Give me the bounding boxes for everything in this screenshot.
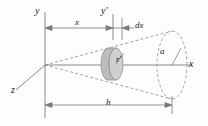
dimension-x-label: x xyxy=(75,18,79,27)
disc-radius-label: r′ xyxy=(116,55,121,64)
dimension-dx-label: dx xyxy=(135,21,144,30)
cone-diagram: y y′ x z x dx h r′ a xyxy=(0,0,208,126)
z-axis-line xyxy=(16,65,45,90)
dimension-x-arrow-right xyxy=(106,26,113,31)
elemental-disc-group xyxy=(101,48,124,80)
diagram-canvas xyxy=(0,0,208,126)
dimension-dx-group xyxy=(113,18,134,40)
dimension-h-arrow-right xyxy=(165,103,172,108)
z-axis-label: z xyxy=(11,85,15,95)
base-radius-leader xyxy=(172,48,181,65)
y-axis-label: y xyxy=(35,6,39,16)
dimension-x-arrow-left xyxy=(45,26,52,31)
x-axis-label: x xyxy=(189,59,193,69)
dimension-x-group xyxy=(45,26,113,31)
disc-front-face xyxy=(109,48,123,80)
dimension-dx-arrow xyxy=(122,26,129,31)
dimension-h-arrow-left xyxy=(45,103,52,108)
y-prime-axis-label: y′ xyxy=(101,6,108,16)
dimension-h-label: h xyxy=(106,98,111,107)
base-radius-label: a xyxy=(160,47,165,56)
